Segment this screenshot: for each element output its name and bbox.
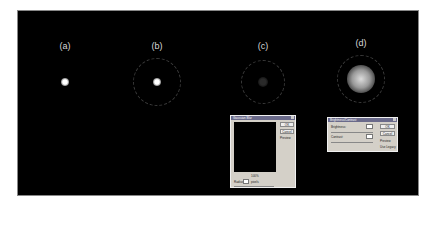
panel-label: (b) xyxy=(152,41,163,51)
ok-button[interactable]: OK xyxy=(380,124,395,129)
close-icon[interactable] xyxy=(291,116,294,119)
brightness-label: Brightness: xyxy=(331,125,346,129)
dialog-title: Gaussian Blur xyxy=(231,116,295,120)
preview-pane xyxy=(234,122,276,172)
preview-checkbox[interactable]: Preview xyxy=(380,139,391,143)
cancel-button[interactable]: Cancel xyxy=(380,131,395,136)
zoom-level: 100% xyxy=(251,174,259,178)
contrast-input[interactable] xyxy=(366,134,373,139)
panel-label: (d) xyxy=(356,38,367,48)
light-spot xyxy=(258,77,268,87)
ok-button[interactable]: OK xyxy=(280,122,294,127)
panel-label: (c) xyxy=(258,41,269,51)
light-spot xyxy=(153,78,161,86)
contrast-label: Contrast: xyxy=(331,135,343,139)
brightness-slider[interactable] xyxy=(331,132,373,133)
radius-input[interactable] xyxy=(243,179,249,184)
close-icon[interactable] xyxy=(393,118,396,121)
unit-label: pixels xyxy=(251,180,259,184)
radius-slider[interactable] xyxy=(234,186,274,187)
light-spot xyxy=(61,78,69,86)
contrast-slider[interactable] xyxy=(331,142,373,143)
cancel-button[interactable]: Cancel xyxy=(280,129,294,134)
dialog-title: Brightness/Contrast xyxy=(328,118,397,122)
brightness-input[interactable] xyxy=(366,124,373,129)
gaussian-blur-dialog: Gaussian Blur OK Cancel Preview 100% Rad… xyxy=(230,115,296,188)
light-spot xyxy=(347,65,375,93)
panel-label: (a) xyxy=(60,41,71,51)
preview-checkbox[interactable]: Preview xyxy=(280,136,291,140)
use-legacy-checkbox[interactable]: Use Legacy xyxy=(380,145,396,149)
brightness-contrast-dialog: Brightness/Contrast Brightness: Contrast… xyxy=(327,117,398,152)
